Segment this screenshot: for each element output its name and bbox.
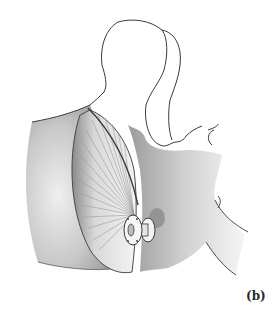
middle-ear xyxy=(128,125,245,275)
ear-drawing xyxy=(0,0,278,315)
anatomical-illustration: (b) xyxy=(0,0,278,315)
ventilation-tube-icon xyxy=(124,215,155,245)
panel-label: (b) xyxy=(246,289,266,303)
